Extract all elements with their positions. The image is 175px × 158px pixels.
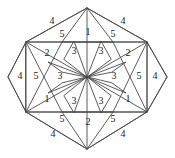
label-lower-left-one: 1 [45,93,50,104]
label-upper-left-two: 2 [45,47,50,58]
label-right-outer-four: 4 [153,70,158,81]
hexagon-dissection-figure: 4 4 5 1 5 2 3 3 2 4 5 3 3 5 4 1 3 3 1 5 … [0,0,175,158]
label-left-outer-four: 4 [18,70,23,81]
label-right-five: 5 [137,70,142,81]
label-left-five: 5 [34,70,39,81]
label-right-center-three: 3 [112,70,117,81]
label-upper-left-three: 3 [72,45,77,56]
label-top-right-inner: 5 [111,28,116,39]
label-upper-right-three: 3 [99,45,104,56]
label-bottom-left-inner: 5 [60,113,65,124]
label-top-right-outer: 4 [121,15,126,26]
label-bottom-right-outer: 4 [121,128,126,139]
label-top-left-inner: 5 [60,28,65,39]
label-top-left-outer: 4 [50,15,55,26]
label-top-center: 1 [86,26,91,37]
label-lower-right-three: 3 [99,95,104,106]
label-lower-left-three: 3 [72,95,77,106]
label-upper-right-two: 2 [126,47,131,58]
label-bottom-left-outer: 4 [51,128,56,139]
label-bottom-center: 2 [86,116,91,127]
label-left-center-three: 3 [58,70,63,81]
label-lower-right-one: 1 [126,93,131,104]
dissection-canvas: 4 4 5 1 5 2 3 3 2 4 5 3 3 5 4 1 3 3 1 5 … [0,0,175,158]
label-bottom-right-inner: 5 [111,113,116,124]
